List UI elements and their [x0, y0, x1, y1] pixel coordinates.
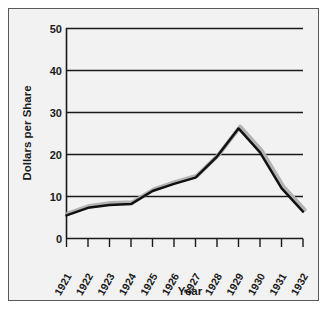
x-tick-label-1928: 1928 [202, 271, 224, 297]
y-tick-label-40: 40 [50, 65, 62, 77]
series-shadow-line [68, 127, 305, 214]
x-tick-label-1923: 1923 [95, 271, 117, 297]
x-tick-label-1931: 1931 [267, 271, 289, 297]
x-axis-title: Year [178, 285, 203, 297]
y-tick-label-50: 50 [50, 23, 62, 35]
x-tick-label-1930: 1930 [245, 271, 267, 297]
x-tick-label-1921: 1921 [52, 271, 74, 297]
y-tick-label-30: 30 [50, 107, 62, 119]
x-ticks [67, 239, 304, 248]
y-tick-labels: 50 40 30 20 10 0 [50, 23, 62, 245]
line-chart-svg: 50 40 30 20 10 0 Dollars per Share [0, 0, 329, 311]
x-tick-label-1929: 1929 [224, 271, 246, 297]
y-tick-label-20: 20 [50, 149, 62, 161]
y-axis-title: Dollars per Share [21, 85, 33, 180]
y-tick-label-0: 0 [56, 233, 62, 245]
y-tick-label-10: 10 [50, 191, 62, 203]
x-tick-label-1922: 1922 [73, 271, 95, 297]
x-tick-label-1932: 1932 [288, 271, 310, 297]
chart-figure: 50 40 30 20 10 0 Dollars per Share [0, 0, 329, 311]
x-tick-label-1924: 1924 [116, 271, 138, 297]
chart-plot-area: 50 40 30 20 10 0 Dollars per Share [0, 0, 329, 311]
x-tick-label-1925: 1925 [138, 271, 160, 297]
gridlines [66, 29, 303, 197]
